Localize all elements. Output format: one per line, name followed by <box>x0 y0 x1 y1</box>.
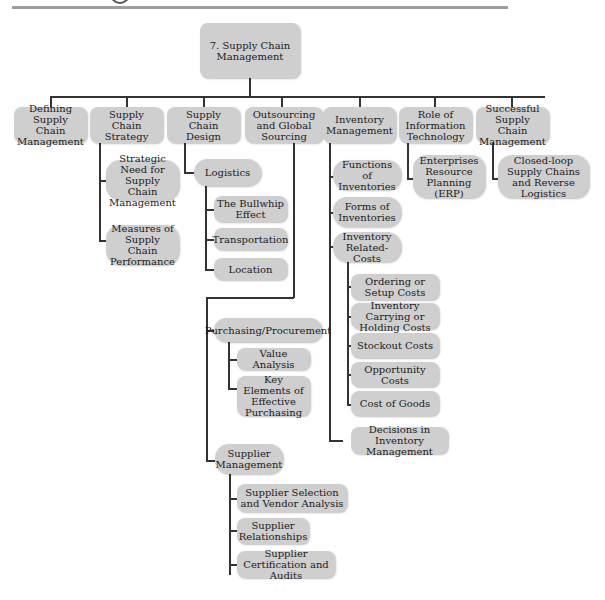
node-functions-inventories: Functions of Inventories <box>333 160 401 190</box>
node-outsourcing: Outsourcing and Global Sourcing <box>245 107 323 143</box>
node-measures-performance: Measures of Supply Chain Performance <box>106 225 179 265</box>
node-successful-scm: Successful Supply Chain Management <box>476 107 549 143</box>
connector <box>347 260 349 405</box>
node-strategic-need: Strategic Need for Supply Chain Manageme… <box>106 160 179 200</box>
node-purchasing: Purchasing/Procurement <box>214 318 322 342</box>
node-inventory-mgmt: Inventory Management <box>323 107 396 143</box>
node-label: Supplier Relationships <box>239 520 308 542</box>
node-supplier-certification: Supplier Certification and Audits <box>237 551 335 578</box>
node-closed-loop: Closed-loop Supply Chains and Reverse Lo… <box>498 155 589 198</box>
root-node: 7. Supply Chain Management <box>200 23 300 78</box>
node-logistics: Logistics <box>194 159 261 186</box>
node-label: The Bullwhip Effect <box>217 198 284 220</box>
node-value-analysis: Value Analysis <box>237 348 310 370</box>
node-erp: Enterprises Resource Planning (ERP) <box>413 155 485 198</box>
node-label: Cost of Goods <box>360 398 430 409</box>
node-label: Measures of Supply Chain Performance <box>109 223 176 267</box>
node-label: Supplier Management <box>216 448 283 470</box>
header-glyph <box>110 0 130 4</box>
node-label: Value Analysis <box>240 348 307 370</box>
node-label: Purchasing/Procurement <box>205 325 332 336</box>
connector <box>229 472 231 575</box>
node-label: Logistics <box>205 167 250 178</box>
connector <box>206 297 294 299</box>
connector <box>492 143 494 179</box>
node-defining-scm: Defining Supply Chain Management <box>14 107 87 143</box>
node-cost-of-goods: Cost of Goods <box>351 391 439 416</box>
node-transportation: Transportation <box>214 228 287 250</box>
connector <box>206 460 215 462</box>
node-key-elements-purchasing: Key Elements of Effective Purchasing <box>237 376 310 416</box>
connector <box>329 143 331 441</box>
node-label: Location <box>229 264 273 275</box>
node-sc-design: Supply Chain Design <box>167 107 240 143</box>
root-label: 7. Supply Chain Management <box>203 40 297 62</box>
node-label: Transportation <box>213 234 289 245</box>
node-label: Supplier Certification and Audits <box>240 548 332 581</box>
connector <box>407 143 409 179</box>
node-supplier-relationships: Supplier Relationships <box>237 518 309 544</box>
node-supplier-selection: Supplier Selection and Vendor Analysis <box>237 484 347 512</box>
node-inventory-related-costs: Inventory Related-Costs <box>333 232 401 262</box>
connector <box>99 143 101 241</box>
node-label: Stockout Costs <box>357 340 433 351</box>
node-label: Key Elements of Effective Purchasing <box>240 374 307 418</box>
node-decisions-inventory: Decisions in Inventory Management <box>351 427 448 454</box>
node-label: Defining Supply Chain Management <box>17 103 84 147</box>
node-label: Supply Chain Strategy <box>93 109 160 142</box>
node-label: Inventory Related-Costs <box>336 231 398 264</box>
node-label: Role of Information Technology <box>402 109 469 142</box>
node-label: Outsourcing and Global Sourcing <box>248 109 320 142</box>
connector <box>206 297 208 461</box>
connector <box>293 143 295 298</box>
node-label: Decisions in Inventory Management <box>354 424 445 457</box>
node-label: Functions of Inventories <box>336 159 398 192</box>
node-label: Supply Chain Design <box>170 109 237 142</box>
node-bullwhip-effect: The Bullwhip Effect <box>214 196 287 222</box>
node-label: Inventory Carrying or Holding Costs <box>354 300 436 333</box>
node-opportunity-costs: Opportunity Costs <box>351 362 439 387</box>
node-label: Successful Supply Chain Management <box>479 103 546 147</box>
node-label: Inventory Management <box>326 114 393 136</box>
node-label: Supplier Selection and Vendor Analysis <box>240 487 344 509</box>
node-label: Forms of Inventories <box>336 201 398 223</box>
node-label: Strategic Need for Supply Chain Manageme… <box>109 153 176 208</box>
connector <box>50 96 545 98</box>
node-carrying-costs: Inventory Carrying or Holding Costs <box>351 303 439 329</box>
node-supplier-mgmt: Supplier Management <box>215 444 283 474</box>
node-location: Location <box>214 258 287 280</box>
node-label: Enterprises Resource Planning (ERP) <box>416 155 482 199</box>
connector <box>329 440 343 442</box>
connector <box>184 143 186 173</box>
node-ordering-costs: Ordering or Setup Costs <box>351 274 439 300</box>
node-sc-strategy: Supply Chain Strategy <box>90 107 163 143</box>
node-forms-inventories: Forms of Inventories <box>333 197 401 227</box>
node-role-of-it: Role of Information Technology <box>399 107 472 143</box>
node-label: Closed-loop Supply Chains and Reverse Lo… <box>501 155 586 199</box>
node-label: Opportunity Costs <box>354 364 436 386</box>
header-rule <box>12 6 508 9</box>
node-stockout-costs: Stockout Costs <box>351 333 439 358</box>
node-label: Ordering or Setup Costs <box>354 276 436 298</box>
connector <box>249 78 251 96</box>
connector <box>205 186 207 270</box>
connector <box>228 342 230 389</box>
